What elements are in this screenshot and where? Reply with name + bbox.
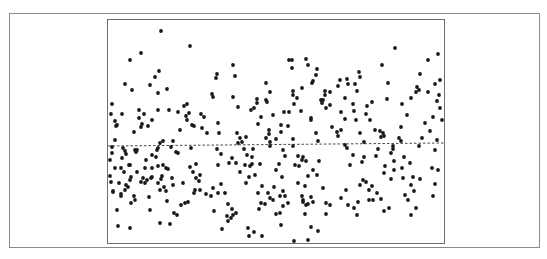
data-point (214, 76, 218, 80)
data-point (335, 130, 339, 134)
data-point (367, 198, 371, 202)
data-point (157, 69, 161, 73)
data-point (323, 89, 327, 93)
data-point (330, 125, 334, 129)
data-point (159, 29, 163, 33)
data-point (169, 145, 173, 149)
data-point (226, 219, 230, 223)
data-point (170, 176, 174, 180)
data-point (391, 147, 395, 151)
data-point (328, 103, 332, 107)
data-point (379, 197, 383, 201)
data-point (132, 130, 136, 134)
data-point (383, 164, 387, 168)
data-point (268, 144, 272, 148)
data-point (343, 96, 347, 100)
data-point (233, 74, 237, 78)
data-point (414, 90, 418, 94)
scatter-plot (0, 0, 547, 259)
data-point (278, 211, 282, 215)
data-point (153, 75, 157, 79)
data-point (344, 188, 348, 192)
data-point (184, 114, 188, 118)
data-point (240, 140, 244, 144)
data-point (109, 112, 113, 116)
data-point (181, 181, 185, 185)
data-point (146, 124, 150, 128)
data-point (368, 118, 372, 122)
data-point (128, 58, 132, 62)
data-point (110, 102, 114, 106)
data-point (324, 201, 328, 205)
data-point (370, 100, 374, 104)
data-point (255, 101, 259, 105)
data-point (435, 138, 439, 142)
data-point (260, 184, 264, 188)
data-point (128, 163, 132, 167)
data-point (215, 147, 219, 151)
data-point (291, 144, 295, 148)
data-point (217, 131, 221, 135)
data-point (238, 136, 242, 140)
data-point (323, 93, 327, 97)
data-point (281, 148, 285, 152)
data-point (373, 128, 377, 132)
data-point (300, 194, 304, 198)
data-point (223, 191, 227, 195)
data-point (426, 90, 430, 94)
data-point (389, 151, 393, 155)
data-point (321, 186, 325, 190)
data-point (113, 138, 117, 142)
data-point (357, 70, 361, 74)
data-point (134, 150, 138, 154)
data-point (352, 206, 356, 210)
data-point (193, 188, 197, 192)
data-point (161, 163, 165, 167)
data-point (304, 159, 308, 163)
data-point (371, 198, 375, 202)
data-point (171, 183, 175, 187)
data-point (385, 97, 389, 101)
data-point (417, 144, 421, 148)
data-point (219, 152, 223, 156)
data-point (360, 160, 364, 164)
data-point (154, 155, 158, 159)
data-point (290, 66, 294, 70)
data-point (281, 189, 285, 193)
data-point (188, 44, 192, 48)
data-point (259, 115, 263, 119)
data-point (257, 207, 261, 211)
data-point (231, 95, 235, 99)
data-point (144, 158, 148, 162)
data-point (358, 75, 362, 79)
data-point (188, 165, 192, 169)
data-point (309, 195, 313, 199)
data-point (264, 81, 268, 85)
data-point (387, 206, 391, 210)
data-point (420, 136, 424, 140)
data-point (247, 234, 251, 238)
data-point (306, 63, 310, 67)
data-point (145, 178, 149, 182)
data-point (244, 135, 248, 139)
data-point (128, 226, 132, 230)
data-point (226, 202, 230, 206)
data-point (300, 86, 304, 90)
data-point (265, 100, 269, 104)
data-point (354, 118, 358, 122)
data-point (264, 136, 268, 140)
data-point (290, 58, 294, 62)
data-point (204, 192, 208, 196)
data-point (362, 140, 366, 144)
data-point (124, 152, 128, 156)
data-point (409, 96, 413, 100)
data-point (311, 200, 315, 204)
data-point (267, 132, 271, 136)
data-point (132, 194, 136, 198)
data-point (150, 175, 154, 179)
data-point (392, 168, 396, 172)
data-point (186, 200, 190, 204)
data-point (162, 185, 166, 189)
data-point (436, 168, 440, 172)
data-point (171, 139, 175, 143)
